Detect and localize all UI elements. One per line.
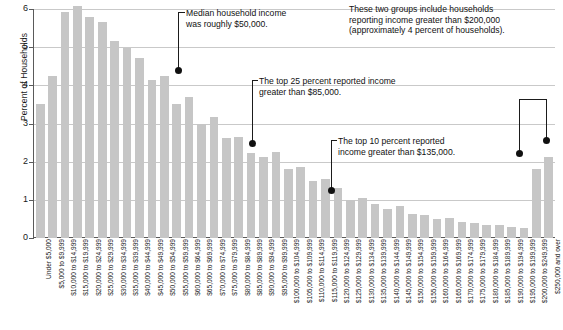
annotation-median-line2: was roughly $50,000.	[186, 19, 286, 30]
annotation-topgroups: These two groups include households repo…	[349, 4, 505, 36]
bar	[61, 12, 70, 238]
bar	[185, 97, 194, 238]
annotation-median: Median household income was roughly $50,…	[186, 8, 286, 29]
annotation-topgroups-line2: reporting income greater than $200,000	[349, 15, 505, 26]
bar	[495, 225, 504, 238]
x-tick-label: $155,000 to $159,999	[428, 239, 439, 329]
annotation-median-dot	[175, 67, 182, 74]
bar	[197, 124, 206, 239]
x-tick-label: $135,000 to $139,999	[378, 239, 389, 329]
x-tick-label: $250,000 and over	[552, 239, 563, 329]
x-tick-label: Under $5,000	[43, 239, 54, 329]
x-tick-label: $45,000 to $49,999	[155, 239, 166, 329]
y-tick-label-1: 1	[6, 195, 28, 204]
annotation-top10: The top 10 percent reported income great…	[338, 136, 455, 157]
x-tick-label: $145,000 to $149,999	[403, 239, 414, 329]
annotation-top25-line2: greater than $85,000.	[259, 87, 396, 98]
x-tick-label: $200,000 to $249,999	[539, 239, 550, 329]
bar	[36, 104, 45, 238]
x-tick-label: $165,000 to $169,999	[453, 239, 464, 329]
annotation-topgroups-dot-left	[516, 150, 523, 157]
y-tick-mark-3	[29, 124, 34, 125]
x-tick-label: $65,000 to $69,999	[204, 239, 215, 329]
bar	[135, 58, 144, 238]
bar	[334, 188, 343, 238]
y-tick-label-5: 5	[6, 42, 28, 51]
x-tick-label: $10,000 to $14,999	[68, 239, 79, 329]
x-tick-label: $140,000 to $144,999	[391, 239, 402, 329]
x-tick-label: $190,000 to $194,999	[515, 239, 526, 329]
x-tick-label: $25,000 to $29,999	[105, 239, 116, 329]
bar	[172, 104, 181, 238]
bar	[482, 225, 491, 238]
annotation-topgroups-leader-right	[546, 110, 547, 140]
bar	[123, 48, 132, 238]
annotation-top10-line1: The top 10 percent reported	[338, 136, 455, 147]
x-tick-label: $105,000 to $109,999	[304, 239, 315, 329]
x-tick-label: $110,000 to $114,999	[316, 239, 327, 329]
bar	[396, 206, 405, 238]
annotation-top25: The top 25 percent reported income great…	[259, 76, 396, 97]
x-tick-label: $30,000 to $34,999	[118, 239, 129, 329]
x-tick-label: $55,000 to $59,999	[180, 239, 191, 329]
annotation-top25-leader	[252, 80, 253, 143]
x-tick-label: $100,000 to $104,999	[291, 239, 302, 329]
y-tick-label-3: 3	[6, 119, 28, 128]
y-tick-mark-6	[29, 9, 34, 10]
bar	[148, 80, 157, 238]
bar	[247, 153, 256, 238]
annotation-topgroups-line3: (approximately 4 percent of households).	[349, 25, 505, 36]
bar	[309, 181, 318, 238]
bar	[371, 204, 380, 238]
y-axis-tick-labels: 0123456	[4, 0, 28, 240]
x-tick-label: $60,000 to $64,999	[192, 239, 203, 329]
bar	[210, 117, 219, 238]
y-tick-mark-1	[29, 200, 34, 201]
x-tick-label: $115,000 to $119,999	[329, 239, 340, 329]
annotation-top10-dot	[328, 187, 335, 194]
bar	[445, 218, 454, 238]
bar	[73, 6, 82, 238]
x-tick-label: $70,000 to $74,999	[217, 239, 228, 329]
x-tick-label: $120,000 to $124,999	[341, 239, 352, 329]
x-axis-tick-labels: Under $5,000$5,000 to $9,999$10,000 to $…	[34, 239, 555, 330]
x-tick-label: $5,000 to $9,999	[56, 239, 67, 329]
plot-area	[34, 9, 555, 238]
x-tick-label: $95,000 to $99,999	[279, 239, 290, 329]
bar	[346, 200, 355, 238]
bar	[507, 227, 516, 238]
y-tick-label-4: 4	[6, 80, 28, 89]
bar	[433, 219, 442, 238]
bar	[222, 138, 231, 238]
y-tick-mark-2	[29, 162, 34, 163]
bar	[234, 137, 243, 238]
annotation-median-line1: Median household income	[186, 8, 286, 19]
bar	[383, 209, 392, 238]
bar	[85, 17, 94, 238]
annotation-topgroups-dot-right	[543, 137, 550, 144]
x-tick-label: $85,000 to $89,999	[254, 239, 265, 329]
x-tick-label: $175,000 to $179,999	[477, 239, 488, 329]
annotation-topgroups-line1: These two groups include households	[349, 4, 505, 15]
x-tick-label: $125,000 to $129,999	[353, 239, 364, 329]
x-tick-label: $35,000 to $39,999	[130, 239, 141, 329]
x-tick-label: $130,000 to $134,999	[366, 239, 377, 329]
bar	[408, 214, 417, 238]
bar	[259, 157, 268, 238]
x-tick-label: $80,000 to $84,999	[242, 239, 253, 329]
annotation-median-tick	[178, 12, 185, 13]
annotation-top10-line2: income greater than $135,000.	[338, 147, 455, 158]
x-tick-label: $160,000 to $164,999	[440, 239, 451, 329]
bar	[420, 215, 429, 238]
y-tick-mark-0	[29, 238, 34, 239]
bar	[272, 152, 281, 238]
y-tick-label-0: 0	[6, 233, 28, 242]
annotation-top25-line1: The top 25 percent reported income	[259, 76, 396, 87]
bar	[520, 228, 529, 238]
bar	[160, 76, 169, 238]
x-tick-label: $50,000 to $54,999	[167, 239, 178, 329]
x-tick-label: $195,000 to $199,999	[527, 239, 538, 329]
x-tick-label: $185,000 to $189,999	[502, 239, 513, 329]
bar	[358, 198, 367, 238]
